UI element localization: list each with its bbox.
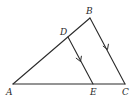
label-a: A xyxy=(5,87,13,97)
label-c: C xyxy=(122,87,129,97)
label-d: D xyxy=(59,27,67,37)
segment-bc xyxy=(90,18,125,84)
triangle-diagram: A B C D E xyxy=(0,0,138,100)
segment-ab xyxy=(13,18,90,84)
label-b: B xyxy=(85,6,93,16)
label-e: E xyxy=(89,87,97,97)
